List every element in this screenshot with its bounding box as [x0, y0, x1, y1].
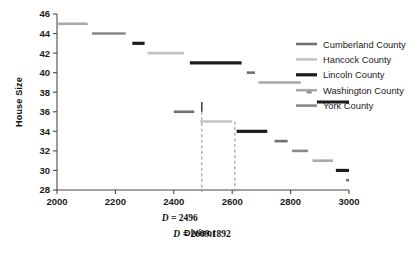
y-axis-tick-label: 46 [39, 8, 50, 19]
chart-canvas: 2830323436384042444620002200240026002800… [0, 0, 420, 262]
y-axis-tick-label: 36 [39, 106, 50, 117]
x-axis-tick-label: 2000 [46, 196, 67, 207]
legend-label-lincoln-county: Lincoln County [323, 70, 385, 80]
y-axis-tick-label: 34 [39, 126, 50, 137]
x-axis-tick-label: 2400 [163, 196, 184, 207]
y-axis-tick-label: 32 [39, 145, 50, 156]
y-axis-tick-label: 40 [39, 67, 50, 78]
divisor-label-2: D= 2609.1892 [172, 229, 231, 239]
divisor-label-1: D= 2496 [161, 213, 198, 223]
y-axis-tick-label: 38 [39, 87, 50, 98]
y-axis-tick-label: 28 [39, 184, 50, 195]
axis-frame [57, 14, 349, 190]
x-axis-tick-label: 2200 [105, 196, 126, 207]
legend-label-hancock-county: Hancock County [323, 55, 392, 65]
step-chart: 2830323436384042444620002200240026002800… [0, 0, 420, 262]
y-axis-tick-label: 44 [39, 28, 50, 39]
x-axis-tick-label: 2800 [280, 196, 301, 207]
y-axis-title: House Size [14, 77, 24, 127]
legend-label-washington-county: Washington County [323, 86, 404, 96]
legend-label-york-county: York County [323, 101, 374, 111]
y-axis-tick-label: 30 [39, 165, 50, 176]
legend-label-cumberland-county: Cumberland County [323, 40, 406, 50]
x-axis-tick-label: 3000 [338, 196, 359, 207]
x-axis-tick-label: 2600 [222, 196, 243, 207]
y-axis-tick-label: 42 [39, 48, 50, 59]
